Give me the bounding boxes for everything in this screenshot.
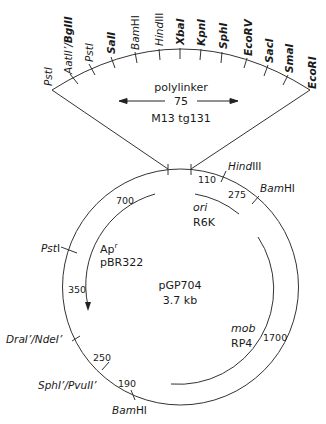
arrow-right-icon — [230, 99, 238, 104]
site-ecorv: EcoRV — [243, 19, 254, 56]
feature-apr-source: pBR322 — [100, 257, 143, 268]
site-sphi: SphI — [218, 23, 229, 49]
site-kpni: KpnI — [196, 19, 207, 46]
site-ecori: EcoRI — [307, 56, 318, 89]
site-psti-outer: PstI — [43, 67, 54, 86]
label-psti: PstI — [41, 243, 60, 254]
site-xbai: XbaI — [175, 18, 186, 45]
feature-mob-source: RP4 — [231, 338, 252, 349]
feature-ori-source: R6K — [193, 217, 215, 228]
feature-apr-label: Apr — [100, 243, 117, 255]
site-saci: SacI — [264, 38, 275, 63]
fan-line-left — [52, 90, 168, 169]
label-sphi-pvuii: SphI’/PvuII’ — [38, 380, 97, 391]
distance-1700: 1700 — [263, 333, 287, 343]
site-sali: SalI — [106, 32, 117, 54]
site-psti: PstI — [84, 43, 95, 62]
apr-arc — [86, 194, 155, 306]
polylinker-fan — [52, 48, 310, 169]
distance-250: 250 — [93, 353, 111, 363]
site-bamhi: BamHI — [130, 15, 141, 50]
plasmid-size: 3.7 kb — [150, 295, 210, 306]
arrow-left-icon — [119, 99, 127, 104]
feature-ori-label: ori — [193, 202, 207, 213]
polylinker-title: polylinker — [145, 82, 217, 93]
label-hindiii: HindIII — [228, 161, 261, 172]
polylinker-ticks — [70, 48, 288, 85]
feature-mob-label: mob — [231, 323, 255, 334]
apr-arrowhead-icon — [85, 302, 91, 311]
site-aatii-bglii: AatII’/BglII — [63, 16, 74, 74]
mob-arc — [171, 237, 274, 384]
polylinker-source: M13 tg131 — [140, 113, 222, 124]
site-hindiii: HindIII — [154, 13, 165, 46]
label-bamhi-bottom: BamHI — [112, 405, 147, 416]
fan-line-right — [191, 90, 310, 169]
label-bamhi-top: BamHI — [260, 183, 295, 194]
distance-190: 190 — [118, 379, 136, 389]
distance-350: 350 — [68, 285, 86, 295]
plasmid-map-graphic — [0, 0, 326, 424]
plasmid-name: pGP704 — [150, 280, 210, 291]
distance-700: 700 — [116, 196, 134, 206]
polylinker-length: 75 — [165, 96, 197, 107]
distance-110: 110 — [198, 175, 216, 185]
label-drai-ndei: DraI’/NdeI’ — [6, 334, 62, 345]
site-smai: SmaI — [284, 44, 295, 74]
distance-275: 275 — [228, 190, 246, 200]
